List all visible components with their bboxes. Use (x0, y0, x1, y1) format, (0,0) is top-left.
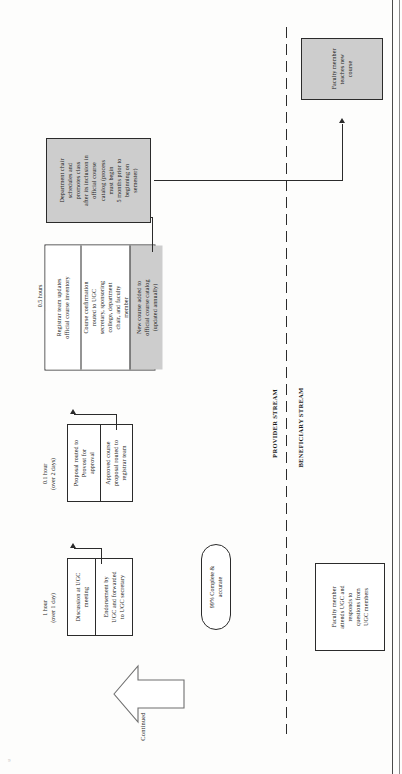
step-cell: Endorsement by UGC and forwarded to UGC … (95, 559, 132, 635)
connector-line (342, 124, 343, 181)
beneficiary-box-label: Faculty member attends UGC and responds … (330, 583, 370, 630)
page-edge-line-outer (399, 0, 400, 774)
step-cell-label: Endorsement by UGC and forwarded to UGC … (102, 570, 126, 623)
step-dept-chair-schedules[interactable]: Department chair schedules and promotes … (46, 138, 151, 223)
page-canvas: 1 hour (over 1 day) Discussion at UGC me… (0, 0, 402, 774)
step-provost-approval[interactable]: Proposal routed to Provost for approval … (67, 424, 133, 502)
step-label: Department chair schedules and promotes … (58, 153, 138, 208)
timing-ugc-meeting: 1 hour (over 1 day) (42, 576, 58, 640)
connector-line (101, 548, 102, 564)
continued-arrow-icon (112, 661, 186, 727)
step-cell: Approved course proposal routed to regis… (100, 425, 133, 501)
step-cell: Proposal routed to Provost for approval (68, 425, 100, 501)
step-cell-label: Course confirmation routed to UGC secret… (81, 280, 129, 336)
step-registrar-updates[interactable]: Registrar team updates official course i… (45, 245, 156, 371)
connector-line (154, 180, 343, 181)
step-cell: Registrar team updates official course i… (46, 246, 81, 370)
step-cell: Course confirmation routed to UGC secret… (80, 246, 129, 370)
step-cell-label: New course added to official course cata… (134, 278, 158, 336)
connector-line (74, 414, 117, 415)
connector-line (74, 548, 102, 549)
page-edge-line (392, 0, 393, 774)
step-cell-label: Registrar team updates official course i… (55, 275, 71, 339)
step-faculty-teaches[interactable]: Faculty member teaches new course (301, 38, 383, 100)
provider-stream-label: PROVIDER STREAM (271, 389, 278, 458)
stream-divider (285, 24, 288, 734)
step-cell-label: Approved course proposal routed to regis… (104, 439, 128, 487)
timing-provost-approval: 0.1 hour (over 2 days) (42, 442, 58, 506)
beneficiary-stream-label: BENEFICIARY STREAM (297, 387, 304, 467)
page-corner-mark: 9 (8, 758, 11, 763)
connector-arrow (70, 409, 76, 414)
continued-label: Continued (139, 712, 146, 740)
connector-line (152, 217, 153, 252)
metric-pill-complete-accurate[interactable]: 99% Complete & accurate (201, 544, 231, 630)
step-cell-label: Proposal routed to Provost for approval (72, 439, 96, 487)
metric-pill-label: 99% Complete & accurate (208, 566, 224, 609)
connector-arrow (70, 543, 76, 548)
connector-arrow (339, 118, 345, 123)
step-cell: Discussion at UGC meeting (68, 559, 95, 635)
step-label: Faculty member teaches new course (330, 46, 354, 91)
step-cell-label: Discussion at UGC meeting (74, 572, 90, 623)
connector-line (116, 414, 117, 430)
step-ugc-meeting[interactable]: Discussion at UGC meeting Endorsement by… (67, 558, 133, 636)
beneficiary-box-faculty-attends[interactable]: Faculty member attends UGC and responds … (315, 563, 385, 651)
step-cell-shaded: New course added to official course cata… (130, 246, 163, 370)
